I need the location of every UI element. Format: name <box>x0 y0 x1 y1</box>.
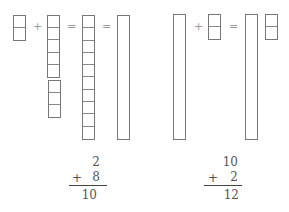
ten-rod-result <box>245 14 258 140</box>
left-top-number: 2 <box>70 155 100 169</box>
diagram: + = = + = 2 + 8 10 10 + 2 12 <box>0 0 289 212</box>
left-result: 10 <box>67 188 97 202</box>
ten-rod-left <box>117 15 130 140</box>
equals-sign: = <box>102 20 111 33</box>
left-sum-line <box>69 185 107 186</box>
two-block-left <box>13 15 26 41</box>
right-sum-line <box>204 185 242 186</box>
five-block-column <box>47 15 60 78</box>
right-top-number: 10 <box>208 155 238 169</box>
three-block-column <box>48 80 61 118</box>
plus-sign: + <box>33 20 42 33</box>
two-block-result <box>265 14 278 40</box>
right-result: 12 <box>209 188 239 202</box>
equals-sign: = <box>67 20 76 33</box>
plus-sign: + <box>194 20 203 33</box>
right-bottom-number: 2 <box>208 170 238 184</box>
left-bottom-number: 8 <box>70 170 100 184</box>
ten-block-column <box>82 15 95 140</box>
two-block-right <box>208 14 221 40</box>
ten-rod-right <box>173 14 186 140</box>
equals-sign: = <box>229 20 238 33</box>
